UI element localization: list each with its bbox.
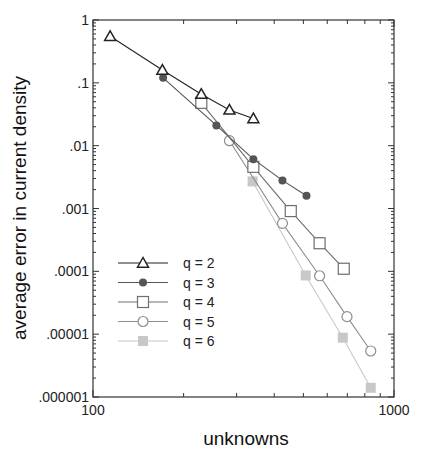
legend-label: q = 6: [183, 333, 215, 349]
triangle-marker: [105, 31, 116, 41]
triangle-marker: [196, 89, 207, 99]
x-tick-label: 1000: [378, 402, 409, 418]
filled-circle-marker: [139, 279, 147, 287]
chart: 1.1.01.001.0001.00001.000001 1001000 q =…: [0, 0, 422, 459]
filled-square-marker: [138, 336, 148, 346]
legend-label: q = 3: [183, 275, 215, 291]
x-axis-title: unknowns: [203, 428, 289, 449]
filled-square-marker: [338, 333, 348, 343]
triangle-marker: [224, 104, 235, 114]
filled-square-marker: [366, 383, 376, 393]
y-axis-title: average error in current density: [9, 75, 30, 340]
series-q5: [224, 136, 375, 356]
triangle-marker: [157, 65, 168, 75]
legend: q = 2q = 3q = 4q = 5q = 6: [118, 255, 215, 349]
triangle-marker: [248, 113, 259, 123]
y-tick-label: .01: [70, 138, 90, 154]
open-circle-marker: [366, 346, 376, 356]
y-tick-label: .00001: [46, 326, 89, 342]
open-circle-marker: [277, 218, 287, 228]
y-tick-labels: 1.1.01.001.0001.00001.000001: [38, 12, 89, 405]
legend-item: q = 3: [118, 275, 215, 291]
y-tick-label: .0001: [54, 263, 89, 279]
series-line: [110, 36, 253, 118]
legend-label: q = 4: [183, 294, 215, 310]
legend-item: q = 5: [118, 314, 215, 330]
filled-circle-marker: [159, 74, 167, 82]
open-circle-marker: [138, 317, 148, 327]
open-circle-marker: [342, 312, 352, 322]
series-line: [253, 181, 371, 387]
filled-circle-marker: [278, 176, 286, 184]
square-marker: [338, 263, 349, 274]
series-q2: [105, 31, 259, 123]
square-marker: [285, 206, 296, 217]
series-q3: [159, 74, 310, 200]
y-tick-label: .001: [62, 201, 89, 217]
filled-circle-marker: [212, 121, 220, 129]
legend-item: q = 6: [118, 333, 215, 349]
y-tick-label: .1: [77, 75, 89, 91]
square-marker: [314, 238, 325, 249]
x-tick-label: 100: [81, 402, 105, 418]
legend-item: q = 4: [118, 294, 215, 310]
legend-label: q = 2: [183, 255, 215, 271]
square-marker: [138, 297, 149, 308]
triangle-marker: [138, 258, 149, 268]
filled-circle-marker: [249, 155, 257, 163]
x-tick-labels: 1001000: [81, 402, 409, 418]
legend-label: q = 5: [183, 314, 215, 330]
legend-item: q = 2: [118, 255, 215, 271]
series-q6: [248, 176, 376, 392]
open-circle-marker: [315, 271, 325, 281]
filled-circle-marker: [302, 192, 310, 200]
y-tick-label: 1: [81, 12, 89, 28]
filled-square-marker: [301, 270, 311, 280]
